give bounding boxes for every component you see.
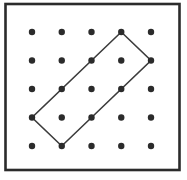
peg-dot-2-3 (88, 114, 94, 120)
peg-dot-2-1 (88, 57, 94, 63)
peg-dot-4-4 (148, 143, 154, 149)
peg-dot-1-1 (59, 57, 65, 63)
geoboard-figure (0, 0, 187, 180)
peg-dot-3-1 (118, 57, 124, 63)
peg-dot-2-4 (88, 143, 94, 149)
peg-dot-3-4 (118, 143, 124, 149)
peg-dot-4-2 (148, 86, 154, 92)
dot-grid (29, 29, 154, 149)
peg-dot-0-3 (29, 114, 35, 120)
geoboard-canvas (0, 0, 187, 180)
peg-dot-2-2 (88, 86, 94, 92)
peg-dot-3-0 (118, 29, 124, 35)
peg-dot-1-4 (59, 143, 65, 149)
peg-dot-0-0 (29, 29, 35, 35)
peg-dot-0-1 (29, 57, 35, 63)
peg-dot-1-2 (59, 86, 65, 92)
peg-dot-1-3 (59, 114, 65, 120)
peg-dot-4-1 (148, 57, 154, 63)
peg-dot-4-3 (148, 114, 154, 120)
peg-dot-0-4 (29, 143, 35, 149)
peg-dot-1-0 (59, 29, 65, 35)
peg-dot-0-2 (29, 86, 35, 92)
peg-dot-2-0 (88, 29, 94, 35)
peg-dot-3-3 (118, 114, 124, 120)
peg-dot-3-2 (118, 86, 124, 92)
peg-dot-4-0 (148, 29, 154, 35)
